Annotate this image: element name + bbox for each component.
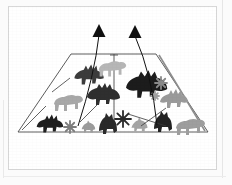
star-burst (64, 121, 76, 133)
burst-core (154, 95, 157, 98)
burst-core (68, 125, 72, 129)
arrow-head (129, 25, 142, 38)
screenshot-root (0, 0, 232, 185)
scan-edge-left (3, 100, 4, 178)
star-burst (155, 77, 167, 89)
scan-edge-right (222, 0, 223, 178)
figure-svg (8, 6, 217, 170)
star-burst (115, 111, 131, 127)
scan-edge-bottom (4, 176, 226, 177)
arrow-head (93, 24, 106, 37)
burst-core (159, 81, 163, 85)
figure-artwork (8, 6, 217, 170)
burst-core (120, 116, 125, 121)
